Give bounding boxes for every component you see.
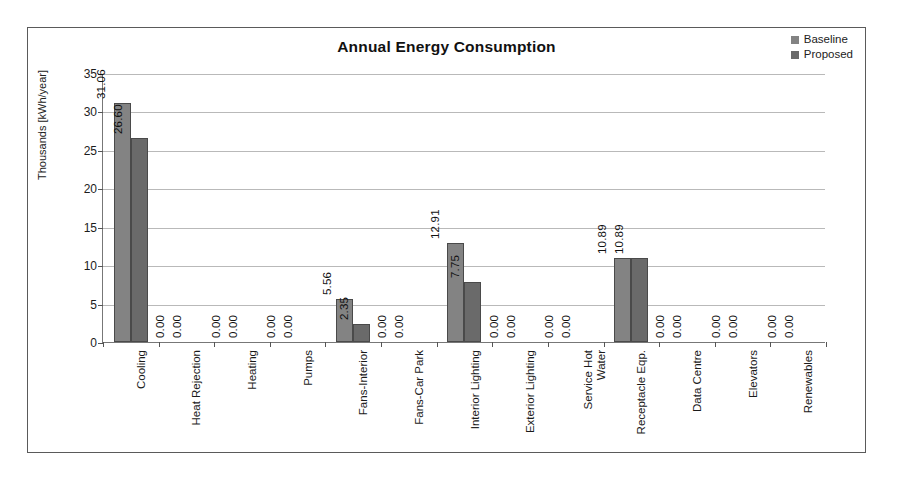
y-axis-tick-label: 5 [90, 298, 97, 312]
bar-pair: 31.0626.60 [114, 74, 148, 342]
bar-baseline[interactable]: 0.00 [281, 73, 298, 342]
y-axis-tick-label: 30 [84, 105, 97, 119]
bar-value-label: 0.00 [727, 315, 739, 338]
bar-pair: 0.000.00 [559, 74, 593, 342]
x-axis-category-label: Fans-Car Park [413, 350, 426, 425]
bar-value-label: 0.00 [544, 315, 556, 338]
bar-proposed[interactable]: 0.00 [409, 73, 426, 342]
bar-pair: 0.000.00 [225, 74, 259, 342]
bar-pair: 10.8910.89 [614, 74, 648, 342]
bar-fill [464, 282, 481, 342]
bar-value-label: 0.00 [171, 315, 183, 338]
x-axis-tick-mark [492, 342, 493, 347]
legend-label-proposed: Proposed [804, 48, 853, 61]
bar-proposed[interactable]: 0.00 [576, 73, 593, 342]
legend-item-baseline[interactable]: Baseline [791, 33, 853, 46]
y-axis-tick-label: 25 [84, 144, 97, 158]
bar-group: 0.000.00 [548, 74, 604, 342]
bar-baseline[interactable]: 0.00 [559, 73, 576, 342]
bar-proposed[interactable]: 0.00 [520, 73, 537, 342]
bar-value-label: 0.00 [783, 315, 795, 338]
x-axis-tick-mark [270, 342, 271, 347]
legend-item-proposed[interactable]: Proposed [791, 48, 853, 61]
x-axis-tick-mark [381, 342, 382, 347]
chart-frame: Annual Energy Consumption Baseline Propo… [27, 27, 866, 453]
bar-group: 5.562.35 [325, 74, 381, 342]
bar-baseline[interactable]: 10.89 [614, 73, 631, 342]
chart-legend: Baseline Proposed [791, 33, 853, 61]
bar-proposed[interactable]: 0.00 [186, 73, 203, 342]
bar-value-label: 0.00 [266, 315, 278, 338]
bar-value-label: 12.91 [429, 209, 441, 239]
bar-value-label: 10.89 [613, 225, 625, 255]
bar-proposed[interactable]: 0.00 [298, 73, 315, 342]
bar-group: 0.000.00 [159, 74, 215, 342]
bar-value-label: 0.00 [377, 315, 389, 338]
bar-proposed[interactable]: 7.75 [464, 73, 481, 342]
bar-baseline[interactable]: 0.00 [225, 73, 242, 342]
bar-group: 0.000.00 [214, 74, 270, 342]
bar-proposed[interactable]: 2.35 [353, 73, 370, 342]
bar-value-label: 0.00 [561, 315, 573, 338]
x-axis-category-label: Receptacle Eqp. [635, 350, 648, 434]
x-axis-tick-mark [437, 342, 438, 347]
plot-area: 05101520253035 31.0626.600.000.000.000.0… [102, 74, 825, 343]
bar-value-label: 26.60 [112, 104, 124, 134]
bar-value-label: 0.00 [672, 315, 684, 338]
bar-value-label: 0.00 [488, 315, 500, 338]
bar-baseline[interactable]: 0.00 [169, 73, 186, 342]
x-axis-category-label: Exterior Lighting [524, 350, 537, 433]
x-axis-tick-mark [659, 342, 660, 347]
bar-proposed[interactable]: 0.00 [242, 73, 259, 342]
bar-pair: 0.000.00 [169, 74, 203, 342]
y-axis-title: Thousands [kWh/year] [36, 70, 48, 180]
y-axis-tick-label: 10 [84, 259, 97, 273]
bar-pair: 0.000.00 [392, 74, 426, 342]
legend-swatch-baseline [791, 36, 799, 44]
y-axis-tick-label: 20 [84, 182, 97, 196]
bar-proposed[interactable]: 0.00 [798, 73, 815, 342]
x-axis-tick-mark [715, 342, 716, 347]
bar-proposed[interactable]: 0.00 [687, 73, 704, 342]
x-axis-category-label: Pumps [302, 350, 315, 386]
bar-value-label: 31.06 [95, 70, 107, 100]
bar-pair: 5.562.35 [336, 74, 370, 342]
bar-baseline[interactable]: 0.00 [670, 73, 687, 342]
bar-group: 0.000.00 [715, 74, 771, 342]
bar-proposed[interactable]: 10.89 [631, 73, 648, 342]
bar-value-label: 0.00 [283, 315, 295, 338]
chart-title: Annual Energy Consumption [28, 38, 865, 56]
bar-group: 0.000.00 [659, 74, 715, 342]
x-axis-tick-mark [548, 342, 549, 347]
bar-proposed[interactable]: 0.00 [743, 73, 760, 342]
x-axis-category-label: Service Hot Water [582, 350, 607, 436]
bar-proposed[interactable]: 26.60 [131, 73, 148, 342]
x-axis-category-label: Heating [246, 350, 259, 390]
bar-fill [614, 258, 631, 342]
y-axis-tick-label: 0 [90, 336, 97, 350]
bar-group: 0.000.00 [770, 74, 826, 342]
bar-baseline[interactable]: 12.91 [447, 73, 464, 342]
x-axis-tick-mark [770, 342, 771, 347]
x-axis-tick-mark [103, 342, 104, 347]
bar-fill [131, 138, 148, 342]
bar-value-label: 0.00 [154, 315, 166, 338]
bar-baseline[interactable]: 0.00 [726, 73, 743, 342]
x-axis-category-label: Data Centre [691, 350, 704, 412]
bar-value-label: 0.00 [394, 315, 406, 338]
bar-baseline[interactable]: 0.00 [781, 73, 798, 342]
x-axis-tick-mark [214, 342, 215, 347]
bar-value-label: 2.35 [338, 297, 350, 320]
bar-value-label: 7.75 [449, 255, 461, 278]
x-axis-tick-mark [826, 342, 827, 347]
x-axis-category-label: Heat Rejection [190, 350, 203, 425]
bar-baseline[interactable]: 0.00 [392, 73, 409, 342]
legend-label-baseline: Baseline [804, 33, 848, 46]
bar-fill [353, 324, 370, 342]
bar-baseline[interactable]: 0.00 [503, 73, 520, 342]
bar-value-label: 0.00 [210, 315, 222, 338]
x-axis-tick-mark [604, 342, 605, 347]
bar-group: 31.0626.60 [103, 74, 159, 342]
y-axis-tick-label: 15 [84, 221, 97, 235]
bar-value-label: 0.00 [710, 315, 722, 338]
